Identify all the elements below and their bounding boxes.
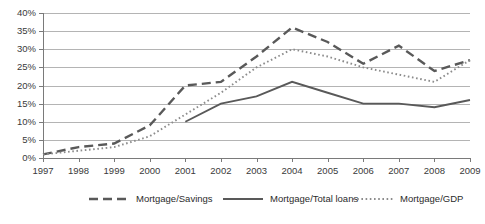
legend-label: Mortgage/GDP — [400, 194, 463, 204]
y-tick-label: 0% — [22, 153, 36, 163]
x-tick-mark — [150, 158, 151, 162]
x-tick-mark — [399, 158, 400, 162]
series-line-1 — [185, 82, 470, 122]
y-tick-label: 10% — [17, 117, 36, 127]
x-tick-label: 1999 — [104, 166, 125, 176]
x-tick-label: 2000 — [139, 166, 160, 176]
x-tick-label: 2001 — [175, 166, 196, 176]
x-tick-label: 2008 — [424, 166, 445, 176]
y-tick-label: 5% — [22, 135, 36, 145]
x-tick-mark — [79, 158, 80, 162]
y-tick-label: 15% — [17, 99, 36, 109]
x-tick-label: 2002 — [210, 166, 231, 176]
legend-swatch-solid-icon — [222, 194, 264, 204]
y-tick-label: 40% — [17, 8, 36, 18]
x-tick-label: 1997 — [32, 166, 53, 176]
x-tick-label: 1998 — [68, 166, 89, 176]
x-axis-labels: 1997199819992000200120022003200420052006… — [0, 166, 485, 182]
chart-legend: Mortgage/SavingsMortgage/Total loansMort… — [0, 190, 485, 214]
x-tick-mark — [434, 158, 435, 162]
legend-label: Mortgage/Savings — [136, 194, 213, 204]
x-tick-mark — [363, 158, 364, 162]
x-tick-label: 2005 — [317, 166, 338, 176]
legend-label: Mortgage/Total loans — [270, 194, 358, 204]
series-line-0 — [43, 28, 470, 155]
legend-swatch-dashed-icon — [88, 194, 130, 204]
x-tick-mark — [470, 158, 471, 162]
y-tick-label: 30% — [17, 45, 36, 55]
legend-item-1[interactable]: Mortgage/Total loans — [222, 194, 358, 204]
x-tick-label: 2004 — [282, 166, 303, 176]
x-tick-mark — [257, 158, 258, 162]
x-tick-mark — [114, 158, 115, 162]
series-line-2 — [43, 49, 470, 154]
x-tick-mark — [185, 158, 186, 162]
legend-item-0[interactable]: Mortgage/Savings — [88, 194, 213, 204]
y-tick-label: 25% — [17, 63, 36, 73]
line-chart: 0%5%10%15%20%25%30%35%40% 19971998199920… — [0, 0, 485, 224]
series-lines — [43, 13, 470, 158]
x-tick-mark — [43, 158, 44, 162]
legend-swatch-dotted-icon — [352, 194, 394, 204]
y-axis-labels: 0%5%10%15%20%25%30%35%40% — [0, 0, 40, 185]
x-tick-label: 2007 — [388, 166, 409, 176]
x-tick-mark — [328, 158, 329, 162]
x-tick-label: 2006 — [353, 166, 374, 176]
plot-wrapper: 0%5%10%15%20%25%30%35%40% 19971998199920… — [0, 0, 485, 185]
x-tick-mark — [292, 158, 293, 162]
legend-item-2[interactable]: Mortgage/GDP — [352, 194, 463, 204]
y-tick-label: 35% — [17, 26, 36, 36]
x-tick-label: 2009 — [459, 166, 480, 176]
x-tick-label: 2003 — [246, 166, 267, 176]
y-tick-label: 20% — [17, 81, 36, 91]
x-tick-mark — [221, 158, 222, 162]
